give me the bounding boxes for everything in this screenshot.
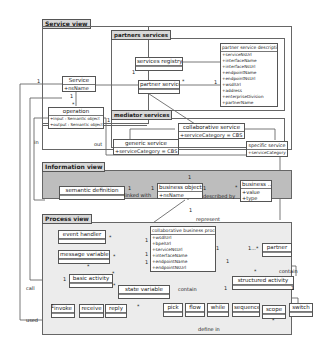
process-view-tab: Process view (42, 214, 92, 224)
partners-services-tab: partners services (111, 30, 171, 40)
structured-activity-class[interactable]: structured activity (232, 276, 294, 290)
multiplicity: 1 (224, 285, 227, 291)
message-variable-class[interactable]: message variable (58, 250, 110, 264)
receive-class[interactable]: receive (79, 304, 104, 318)
sequence-class[interactable]: sequence (232, 303, 260, 317)
class-name: message variable (59, 251, 109, 259)
operation-class[interactable]: operation +input : Semantic object +outp… (48, 107, 104, 129)
class-name: business ... (241, 181, 271, 189)
class-attribute: +type (241, 195, 271, 201)
multiplicity: * (112, 270, 115, 276)
services-registry-class[interactable]: services registry (135, 57, 183, 71)
flow-class[interactable]: flow (185, 303, 205, 317)
collaborative-business-process-class[interactable]: collaborative business process +wsdlUrl … (150, 226, 216, 272)
invoke-class[interactable]: invoke (51, 304, 75, 318)
class-attribute: +serviceCategory = CBS (247, 150, 287, 156)
class-name: business object (158, 184, 202, 192)
used-label: used (26, 317, 38, 323)
linked-with-label: linked with (124, 192, 151, 198)
class-name: generic service (114, 140, 178, 148)
service-class[interactable]: Service +nsName (62, 76, 96, 92)
multiplicity: 1 (145, 259, 148, 265)
collaborative-service-class[interactable]: collaborative service +serviceCategory =… (178, 123, 245, 139)
class-name: basic activity (70, 275, 112, 283)
class-name: collaborative business process (151, 227, 215, 235)
multiplicity: * (87, 263, 90, 269)
multiplicity: 1 (189, 207, 192, 213)
multiplicity: * (254, 268, 257, 274)
class-attribute: +nsName (63, 85, 95, 91)
multiplicity: 1 (37, 78, 40, 84)
multiplicity: 1 (203, 185, 206, 191)
multiplicity: 1 (226, 258, 229, 264)
represent-label: represent (196, 216, 220, 222)
multiplicity: 1...* (248, 245, 258, 251)
event-handler-class[interactable]: event handler (58, 230, 106, 244)
multiplicity: 1 (151, 185, 154, 191)
multiplicity: * (182, 78, 185, 84)
semantic-definition-class[interactable]: semantic definition (59, 186, 125, 200)
multiplicity: 1 (63, 276, 66, 282)
multiplicity: 1 (145, 251, 148, 257)
class-attribute: +nsName (158, 192, 202, 198)
state-variable-class[interactable]: state variable (118, 285, 170, 299)
multiplicity: * (109, 234, 112, 240)
define-in-label: define in (198, 326, 220, 332)
generic-service-class[interactable]: generic service +serviceCategory = CBS (113, 139, 179, 155)
class-name: partner service (139, 81, 179, 89)
multiplicity: 1 (132, 69, 135, 75)
class-name: partner (263, 244, 291, 252)
reply-class[interactable]: reply (105, 304, 127, 318)
class-name: scope (263, 306, 285, 314)
business-attribute-class[interactable]: business ... +value +type (240, 180, 272, 202)
class-name: semantic definition (60, 187, 124, 195)
in-label: in (34, 139, 39, 145)
class-name: partner service description (221, 44, 277, 52)
pick-class[interactable]: pick (163, 303, 183, 317)
class-name: pick (164, 304, 182, 312)
class-attribute: +serviceCategory = CBS (114, 148, 178, 154)
class-name: receive (80, 305, 103, 313)
described-by-label: described by (203, 193, 235, 199)
switch-class[interactable]: switch (289, 303, 313, 317)
multiplicity: 1 (107, 117, 110, 123)
class-name: state variable (119, 286, 169, 294)
multiplicity: * (113, 253, 116, 259)
class-name: specific service (247, 142, 287, 150)
multiplicity: 1 (128, 185, 131, 191)
class-name: structured activity (233, 277, 293, 285)
multiplicity: 1 (291, 285, 294, 291)
partner-service-class[interactable]: partner service (138, 80, 180, 94)
class-name: while (208, 304, 228, 312)
information-view-tab: Information view (42, 162, 105, 172)
multiplicity: 1 (216, 245, 219, 251)
out-label: out (94, 141, 102, 147)
partner-service-description-class[interactable]: partner service description +serviceNsUr… (220, 43, 278, 107)
specific-service-class[interactable]: specific service +serviceCategory = CBS (246, 141, 288, 157)
multiplicity: * (72, 101, 75, 107)
class-name: flow (186, 304, 204, 312)
class-name: services registry (136, 58, 182, 66)
business-object-class[interactable]: business object +nsName (157, 183, 203, 199)
mediator-services-tab: mediator services (111, 110, 172, 120)
multiplicity: * (113, 282, 116, 288)
contain-label: contain (279, 268, 298, 274)
basic-activity-class[interactable]: basic activity (69, 274, 113, 288)
partner-class[interactable]: partner (262, 243, 292, 257)
call-label: call (26, 285, 35, 291)
multiplicity: * (137, 303, 140, 309)
multiplicity: 1 (145, 237, 148, 243)
multiplicity: * (235, 184, 238, 190)
class-name: event handler (59, 231, 105, 239)
class-attribute: +serviceCategory = CBS (179, 132, 244, 138)
multiplicity: * (272, 317, 275, 323)
class-name: Service (63, 77, 95, 85)
class-attribute: +output : Semantic object (49, 122, 103, 128)
class-name: invoke (52, 305, 74, 313)
while-class[interactable]: while (207, 303, 229, 317)
multiplicity: 1 (51, 303, 54, 309)
multiplicity: 1 (188, 174, 191, 180)
class-name: sequence (233, 304, 259, 312)
class-name: switch (290, 304, 312, 312)
class-attribute: +partnerName (221, 100, 277, 106)
